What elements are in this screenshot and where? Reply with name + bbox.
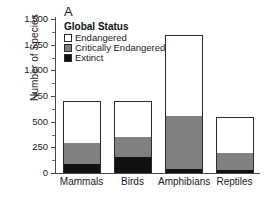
x-tick-label-amphibians: Amphibians bbox=[158, 176, 209, 187]
bar-segment bbox=[216, 117, 254, 153]
bar-segment bbox=[216, 170, 254, 173]
bar-segment bbox=[114, 101, 152, 137]
y-tick-mark-minor bbox=[52, 32, 55, 33]
figure-panel-a: Number of Species 02505007501,0001,2501,… bbox=[0, 0, 265, 205]
x-axis-line bbox=[55, 173, 260, 174]
y-tick-mark bbox=[51, 45, 55, 46]
y-tick-label: 0 bbox=[16, 168, 48, 177]
y-tick-mark-minor bbox=[52, 58, 55, 59]
y-tick-label: 500 bbox=[16, 117, 48, 126]
y-tick-mark bbox=[51, 70, 55, 71]
y-tick-label: 250 bbox=[16, 142, 48, 151]
y-tick-label: 1,250 bbox=[16, 40, 48, 49]
y-tick-label: 1,000 bbox=[16, 65, 48, 74]
bar-segment bbox=[63, 101, 101, 143]
bar-birds bbox=[114, 101, 152, 173]
bar-reptiles bbox=[216, 117, 254, 173]
y-axis-tick-labels: 02505007501,0001,2501,500 bbox=[14, 0, 48, 205]
y-tick-mark bbox=[51, 173, 55, 174]
bar-segment bbox=[165, 35, 203, 116]
bar-segment bbox=[63, 164, 101, 173]
y-tick-label: 1,500 bbox=[16, 14, 48, 23]
bar-amphibians bbox=[165, 35, 203, 173]
bar-segment bbox=[165, 169, 203, 173]
bar-segment bbox=[63, 143, 101, 164]
x-tick-label-mammals: Mammals bbox=[56, 176, 107, 187]
y-tick-label: 750 bbox=[16, 91, 48, 100]
y-tick-mark bbox=[51, 96, 55, 97]
y-tick-mark bbox=[51, 122, 55, 123]
y-tick-mark-minor bbox=[52, 160, 55, 161]
bar-mammals bbox=[63, 101, 101, 173]
x-tick-label-birds: Birds bbox=[107, 176, 158, 187]
y-tick-mark bbox=[51, 19, 55, 20]
y-tick-mark bbox=[51, 147, 55, 148]
x-tick-label-reptiles: Reptiles bbox=[209, 176, 260, 187]
bar-segment bbox=[114, 137, 152, 157]
bar-segment bbox=[165, 116, 203, 169]
y-tick-mark-minor bbox=[52, 83, 55, 84]
plot-area bbox=[56, 17, 260, 173]
bar-segment bbox=[114, 157, 152, 173]
y-tick-mark-minor bbox=[52, 109, 55, 110]
x-axis-tick-labels: MammalsBirdsAmphibiansReptiles bbox=[56, 176, 260, 196]
y-tick-mark-minor bbox=[52, 135, 55, 136]
bar-segment bbox=[216, 153, 254, 170]
